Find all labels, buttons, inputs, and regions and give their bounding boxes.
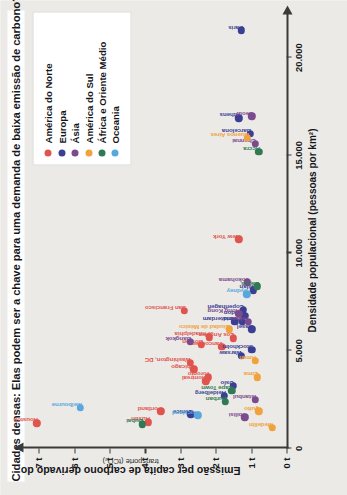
legend: América do NorteEuropaÁsiaAmérica do Sul… — [32, 11, 131, 165]
scatter-point-label: Paris — [227, 24, 242, 31]
y-tick-mark — [180, 448, 181, 453]
scatter-point-label: Medellín — [249, 421, 273, 428]
y-axis-subtitle: transporte (tCO₂) — [5, 456, 255, 464]
x-tick-label: 0 — [292, 445, 303, 450]
scatter-point-label: Cape Town — [201, 384, 233, 391]
x-tick-mark — [286, 349, 291, 350]
x-axis-line — [286, 12, 288, 448]
x-tick-label: 15.000 — [292, 140, 303, 169]
y-axis-title: Emissão per capita de carbono derivado d… — [5, 464, 255, 476]
legend-item-label: Oceania — [109, 106, 120, 143]
scatter-point-label: Bangkok — [165, 335, 190, 342]
legend-item-label: Ásia — [69, 123, 80, 143]
rotated-figure-container: Cidades densas: Elas podem ser a chave p… — [0, 0, 347, 495]
page-title: Cidades densas: Elas podem ser a chave p… — [7, 10, 24, 481]
y-axis-arrow-icon — [14, 442, 23, 452]
legend-item-5[interactable]: Oceania — [109, 22, 120, 156]
scatter-point-label: Ciudad de México — [179, 323, 230, 330]
legend-item-2[interactable]: Ásia — [69, 22, 80, 156]
x-axis-title: Densidade populacional (pessoas por km²) — [306, 12, 317, 448]
legend-color-dot-icon — [71, 149, 78, 156]
x-tick-label: 10.000 — [292, 238, 303, 267]
y-tick-mark — [144, 448, 145, 453]
legend-item-label: Europa — [56, 110, 67, 143]
x-tick-mark — [286, 251, 291, 252]
legend-item-label: América do Norte — [42, 63, 53, 143]
x-tick-label: 5.000 — [292, 339, 303, 362]
legend-color-dot-icon — [85, 149, 92, 156]
legend-item-label: América do Sul — [83, 73, 94, 143]
y-axis-line — [22, 446, 288, 448]
legend-item-0[interactable]: América do Norte — [42, 22, 53, 156]
scatter-point-label: Aman — [239, 354, 256, 361]
scatter-point-label: Accra — [243, 145, 260, 152]
scatter-point-label: Auckland — [172, 409, 199, 416]
scatter-point-label: Tbilisi — [228, 411, 245, 418]
y-tick-mark — [251, 448, 252, 453]
legend-item-4[interactable]: África e Oriente Médio — [96, 22, 107, 156]
legend-item-1[interactable]: Europa — [56, 22, 67, 156]
x-axis-arrow-icon — [282, 5, 292, 14]
chart-figure: Cidades densas: Elas podem ser a chave p… — [0, 0, 347, 495]
scatter-point-label: Melbourne — [51, 401, 81, 408]
scatter-point-label: Durban — [205, 395, 226, 402]
scatter-point-label: New York — [212, 233, 239, 240]
scatter-point-label: Vancouver — [192, 340, 222, 347]
scatter-point-label: Istanbul — [233, 393, 256, 400]
y-tick-mark — [74, 448, 75, 453]
legend-color-dot-icon — [44, 149, 51, 156]
scatter-point-label: Washington, DC — [145, 356, 191, 363]
y-tick-mark — [109, 448, 110, 453]
legend-item-3[interactable]: América do Sul — [83, 22, 94, 156]
legend-color-dot-icon — [98, 149, 105, 156]
scatter-point-label: Dubai — [126, 417, 143, 424]
scatter-point-label: Lima — [244, 371, 258, 378]
y-tick-mark — [286, 448, 287, 453]
y-tick-mark — [38, 448, 39, 453]
legend-color-dot-icon — [58, 149, 65, 156]
scatter-point-label: Lagos — [240, 280, 258, 287]
scatter-point-label: Sydney — [226, 288, 247, 295]
scatter-point-label: San Francisco — [144, 304, 185, 311]
scatter-point-label: Tokyo — [232, 315, 249, 322]
legend-item-label: África e Oriente Médio — [96, 41, 107, 143]
y-axis-title-group: Emissão per capita de carbono derivado d… — [5, 456, 255, 476]
scatter-point-label: Hong Kong — [207, 307, 239, 314]
scatter-point-label: Toronto — [187, 371, 209, 378]
x-tick-mark — [286, 56, 291, 57]
scatter-point-label: Portland — [137, 405, 161, 412]
legend-color-dot-icon — [111, 149, 118, 156]
scatter-point-label: Buenos Aires — [210, 131, 248, 138]
scatter-point-label: Houston — [13, 417, 37, 424]
scatter-point-label: Seoul — [236, 110, 252, 117]
x-tick-label: 20.000 — [292, 43, 303, 72]
scatter-point-label: Quito — [244, 405, 260, 412]
y-tick-label: 0 t — [281, 457, 292, 468]
y-tick-mark — [215, 448, 216, 453]
x-tick-mark — [286, 154, 291, 155]
